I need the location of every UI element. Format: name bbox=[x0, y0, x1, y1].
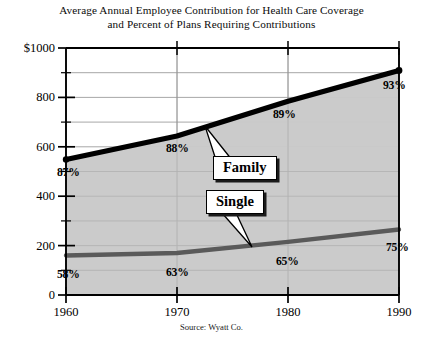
y-tick-label-600: 600 bbox=[0, 140, 55, 155]
family-pct-label-1990: 93% bbox=[383, 79, 406, 92]
family-pct-label-1980: 89% bbox=[273, 108, 296, 121]
single-pct-label-1990: 75% bbox=[386, 241, 409, 254]
y-tick-label-1000: $1000 bbox=[0, 41, 55, 56]
chart-container: Average Annual Employee Contribution for… bbox=[0, 0, 423, 338]
single-pct-label-1970: 63% bbox=[166, 266, 189, 279]
source-note: Source: Wyatt Co. bbox=[0, 322, 423, 332]
y-tick-label-800: 800 bbox=[0, 90, 55, 105]
x-tick-label-1970: 1970 bbox=[147, 305, 207, 320]
series-callout-family[interactable]: Family bbox=[213, 156, 277, 180]
y-tick-label-200: 200 bbox=[0, 239, 55, 254]
series-callout-single[interactable]: Single bbox=[206, 190, 264, 214]
x-tick-label-1990: 1990 bbox=[369, 305, 423, 320]
y-tick-label-0: 0 bbox=[0, 288, 55, 303]
x-tick-label-1960: 1960 bbox=[36, 305, 96, 320]
family-pct-label-1970: 88% bbox=[166, 142, 189, 155]
single-pct-label-1960: 58% bbox=[57, 268, 80, 281]
y-tick-label-400: 400 bbox=[0, 189, 55, 204]
x-tick-label-1980: 1980 bbox=[258, 305, 318, 320]
family-pct-label-1960: 87% bbox=[57, 166, 80, 179]
single-pct-label-1980: 65% bbox=[276, 255, 299, 268]
